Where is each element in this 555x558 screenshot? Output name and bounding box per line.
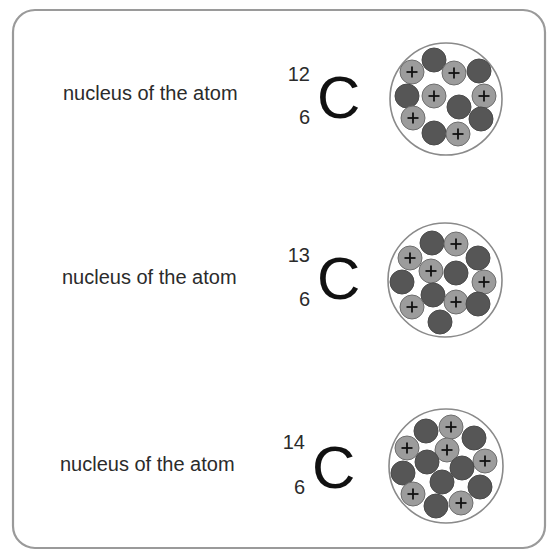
mass-number: 13 <box>288 244 310 266</box>
nucleus-label: nucleus of the atom <box>62 266 237 288</box>
neutron-icon <box>466 292 490 316</box>
element-symbol: C <box>317 245 360 312</box>
proton-icon <box>472 84 496 108</box>
neutron-icon <box>391 461 415 485</box>
element-symbol: C <box>312 434 355 501</box>
proton-icon <box>473 449 497 473</box>
neutron-icon <box>420 231 444 255</box>
proton-icon <box>442 61 466 85</box>
neutron-icon <box>395 84 419 108</box>
proton-icon <box>400 295 424 319</box>
neutron-icon <box>415 450 439 474</box>
neutron-icon <box>422 121 446 145</box>
proton-icon <box>400 60 424 84</box>
neutron-icon <box>424 494 448 518</box>
mass-number: 14 <box>283 431 305 453</box>
nucleus-illustration <box>388 223 502 337</box>
neutron-icon <box>466 246 490 270</box>
proton-icon <box>422 84 446 108</box>
proton-icon <box>439 415 463 439</box>
neutron-icon <box>390 270 414 294</box>
isotope-diagram: nucleus of the atom 12 6 C nucleus of th… <box>0 0 555 558</box>
proton-icon <box>419 259 443 283</box>
neutron-icon <box>428 310 452 334</box>
neutron-icon <box>469 107 493 131</box>
proton-icon <box>401 482 425 506</box>
neutron-icon <box>421 283 445 307</box>
neutron-icon <box>468 475 492 499</box>
nucleus-illustration <box>389 409 503 523</box>
neutron-icon <box>414 419 438 443</box>
proton-icon <box>472 270 496 294</box>
neutron-icon <box>450 456 474 480</box>
neutron-icon <box>430 470 454 494</box>
proton-icon <box>398 246 422 270</box>
neutron-icon <box>467 59 491 83</box>
nucleus-illustration <box>390 43 502 155</box>
proton-icon <box>444 290 468 314</box>
proton-icon <box>444 232 468 256</box>
proton-icon <box>401 106 425 130</box>
neutron-icon <box>462 426 486 450</box>
nucleus-label: nucleus of the atom <box>63 82 238 104</box>
proton-icon <box>446 122 470 146</box>
atomic-number: 6 <box>299 106 310 128</box>
element-symbol: C <box>317 64 360 131</box>
proton-icon <box>395 436 419 460</box>
nucleus-label: nucleus of the atom <box>60 453 235 475</box>
mass-number: 12 <box>288 63 310 85</box>
proton-icon <box>449 491 473 515</box>
neutron-icon <box>444 261 468 285</box>
neutron-icon <box>447 95 471 119</box>
atomic-number: 6 <box>294 476 305 498</box>
atomic-number: 6 <box>299 288 310 310</box>
